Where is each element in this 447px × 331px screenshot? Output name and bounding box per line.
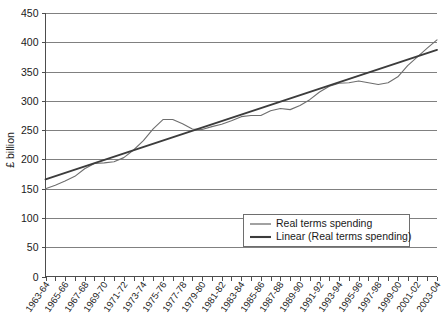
y-tick-label: 200 — [21, 153, 39, 165]
legend-label-linear-trend: Linear (Real terms spending) — [276, 230, 411, 242]
y-tick-label: 250 — [21, 124, 39, 136]
y-tick-label: 0 — [33, 271, 39, 283]
y-tick-label: 50 — [27, 241, 39, 253]
y-tick-label: 400 — [21, 36, 39, 48]
y-axis-tick-labels-group: 050100150200250300350400450 — [21, 7, 39, 283]
chart-legend: Real terms spending Linear (Real terms s… — [244, 215, 412, 247]
chart-canvas: 050100150200250300350400450 £ billion 19… — [0, 0, 447, 331]
x-axis-tick-labels-group: 1963-641965-661967-681969-701971-721973-… — [23, 279, 443, 313]
y-tick-label: 100 — [21, 212, 39, 224]
y-axis-title: £ billion — [4, 132, 16, 168]
y-tick-label: 150 — [21, 183, 39, 195]
y-tick-label: 350 — [21, 66, 39, 78]
real-terms-spending-chart: 050100150200250300350400450 £ billion 19… — [0, 0, 447, 331]
y-tick-label: 300 — [21, 95, 39, 107]
y-tick-label: 450 — [21, 7, 39, 19]
gridlines-group — [46, 14, 438, 248]
legend-label-real-terms-spending: Real terms spending — [276, 217, 372, 229]
